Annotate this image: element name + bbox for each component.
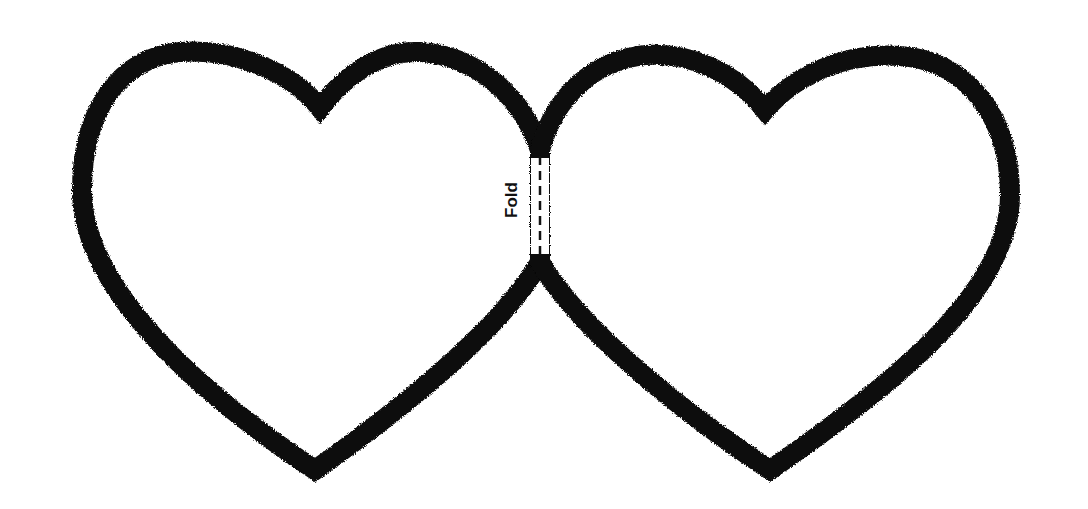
fold-label: Fold: [500, 170, 524, 230]
double-heart-template: [0, 0, 1088, 509]
right-heart-outline: [540, 55, 1010, 470]
left-heart-outline: [82, 52, 540, 470]
